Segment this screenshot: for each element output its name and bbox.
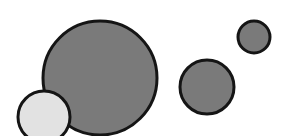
light-circle bbox=[18, 91, 70, 136]
medium-dark-circle bbox=[180, 60, 234, 114]
small-dark-circle bbox=[238, 21, 270, 53]
circles-diagram bbox=[0, 0, 296, 136]
